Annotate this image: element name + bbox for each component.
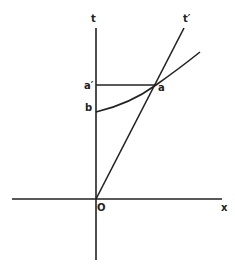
origin-label: O <box>97 202 106 213</box>
point-a-prime-label: a′ <box>84 80 94 91</box>
hyperbola-curve <box>96 52 200 112</box>
t-prime-axis-label: t′ <box>183 13 191 24</box>
t-axis-label: t <box>91 13 96 24</box>
t-prime-axis <box>96 28 184 199</box>
point-a-label: a <box>158 82 165 93</box>
point-b-label: b <box>85 102 92 113</box>
spacetime-diagram: t t′ x O a a′ b <box>0 0 235 272</box>
x-axis-label: x <box>221 202 228 213</box>
